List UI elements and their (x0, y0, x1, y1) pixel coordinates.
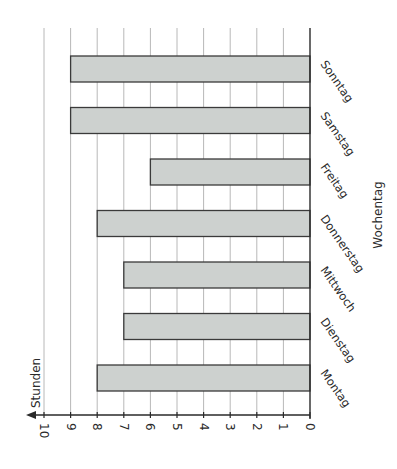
bar-montag (97, 365, 310, 391)
bar-dienstag (124, 314, 310, 340)
tick-label: 1 (276, 423, 290, 431)
tick-label: 6 (143, 423, 157, 431)
category-label-freitag: Freitag (318, 161, 352, 201)
x-axis-label: Wochentag (371, 181, 385, 248)
bar-mittwoch (124, 262, 310, 288)
category-label-samstag: Samstag (318, 109, 358, 158)
tick-label: 0 (303, 423, 317, 431)
bar-sonntag (71, 56, 310, 82)
tick-label: 7 (117, 423, 131, 431)
y-axis-label: Stunden (29, 358, 43, 408)
tick-label: 9 (64, 423, 78, 431)
tick-label: 8 (90, 423, 104, 431)
category-label-sonntag: Sonntag (318, 58, 357, 105)
tick-label: 10 (37, 423, 51, 438)
axis-arrow-icon (26, 411, 36, 419)
tick-label: 5 (170, 423, 184, 431)
category-label-mittwoch: Mittwoch (318, 264, 359, 315)
tick-label: 3 (223, 423, 237, 431)
bar-donnerstag (97, 211, 310, 237)
category-labels: MontagDienstagMittwochDonnerstagFreitagS… (318, 58, 368, 410)
bar-samstag (71, 108, 310, 134)
bar-freitag (150, 159, 310, 185)
tick-labels: 012345678910 (37, 423, 317, 438)
category-label-dienstag: Dienstag (318, 315, 359, 365)
bar-chart: 012345678910 MontagDienstagMittwochDonne… (0, 0, 397, 469)
tick-label: 2 (250, 423, 264, 431)
tick-label: 4 (197, 423, 211, 431)
category-label-montag: Montag (318, 367, 354, 410)
bars (71, 56, 310, 391)
